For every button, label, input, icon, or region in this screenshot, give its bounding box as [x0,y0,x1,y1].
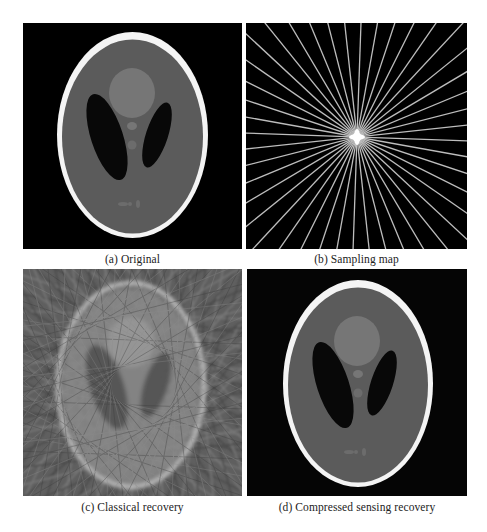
panel-sampling-map [246,23,467,249]
phantom-original-image [23,23,242,249]
panel-compressed-sensing-recovery [247,269,467,496]
caption-sampling-map: (b) Sampling map [246,253,467,265]
radial-sampling-image [246,23,467,249]
compressed-sensing-image [247,269,467,496]
caption-classical-recovery: (c) Classical recovery [23,501,242,513]
panel-classical-recovery [23,269,242,496]
caption-compressed-sensing-recovery: (d) Compressed sensing recovery [247,501,467,513]
caption-original: (a) Original [23,253,242,265]
panel-original [23,23,242,249]
classical-recovery-image [23,269,242,496]
